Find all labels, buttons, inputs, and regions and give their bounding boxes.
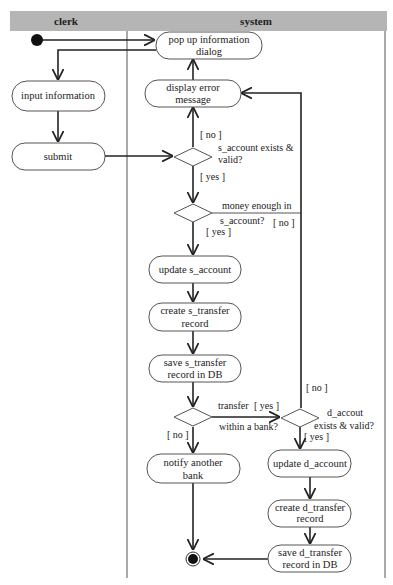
- svg-text:transfer: transfer: [218, 400, 249, 411]
- activity-input-information: input information: [12, 81, 105, 111]
- activity-update-d-account: update d_account: [268, 450, 351, 477]
- guard-yes: [ yes ]: [200, 171, 225, 182]
- activity-create-s-transfer: create s_transfer record: [149, 303, 241, 331]
- svg-text:submit: submit: [44, 151, 73, 162]
- activity-notify-another-bank: notify another bank: [147, 454, 240, 483]
- activity-submit: submit: [12, 143, 105, 170]
- svg-text:record: record: [297, 513, 325, 524]
- svg-text:valid?: valid?: [218, 154, 243, 165]
- guard-no: [ no ]: [167, 429, 189, 440]
- svg-text:record: record: [182, 318, 210, 329]
- decision-s-account-valid: s_account exists & valid? [ no ] [ yes ]: [174, 129, 294, 182]
- guard-yes: [ yes ]: [254, 400, 279, 411]
- svg-text:exists & valid?: exists & valid?: [314, 420, 375, 431]
- guard-no: [ no ]: [273, 217, 295, 228]
- svg-text:s_account?: s_account?: [220, 215, 265, 226]
- svg-text:save d_transfer: save d_transfer: [278, 547, 342, 558]
- guard-yes: [ yes ]: [206, 226, 231, 237]
- decision-d-account-valid: d_accout exists & valid? [ no ] [ yes ]: [281, 382, 375, 442]
- svg-text:money enough in: money enough in: [222, 200, 291, 211]
- svg-text:within a bank?: within a bank?: [219, 421, 278, 432]
- activity-create-d-transfer: create d_transfer record: [268, 500, 351, 527]
- svg-text:update d_account: update d_account: [273, 458, 347, 469]
- guard-yes: [ yes ]: [304, 431, 329, 442]
- svg-text:bank: bank: [183, 470, 204, 481]
- svg-text:input information: input information: [21, 90, 96, 101]
- activity-save-s-transfer: save s_transfer record in DB: [149, 355, 241, 382]
- lane-title-clerk: clerk: [54, 15, 79, 27]
- activity-pop-up: pop up information dialog: [156, 32, 262, 59]
- svg-text:save s_transfer: save s_transfer: [164, 357, 227, 368]
- decision-within-bank: transfer [ yes ] within a bank? [ no ]: [167, 400, 279, 440]
- svg-text:message: message: [175, 94, 211, 105]
- svg-text:d_accout: d_accout: [327, 407, 363, 418]
- svg-text:create s_transfer: create s_transfer: [160, 305, 230, 316]
- final-node: [186, 552, 200, 566]
- svg-text:update s_account: update s_account: [159, 264, 232, 275]
- svg-text:create d_transfer: create d_transfer: [275, 502, 346, 513]
- lane-title-system: system: [240, 15, 272, 27]
- decision-money-enough: money enough in s_account? [ no ] [ yes …: [174, 200, 295, 237]
- activity-save-d-transfer: save d_transfer record in DB: [268, 545, 351, 572]
- svg-text:record in DB: record in DB: [283, 559, 338, 570]
- activity-display-error: display error message: [145, 80, 241, 107]
- svg-text:s_account exists &: s_account exists &: [218, 142, 294, 153]
- guard-no: [ no ]: [200, 129, 222, 140]
- initial-node: [31, 34, 43, 46]
- svg-text:display error: display error: [166, 82, 220, 93]
- svg-text:record in DB: record in DB: [168, 369, 223, 380]
- svg-text:pop up information: pop up information: [168, 34, 250, 45]
- svg-text:notify another: notify another: [163, 457, 223, 468]
- activity-update-s-account: update s_account: [149, 256, 241, 283]
- svg-text:dialog: dialog: [196, 46, 223, 57]
- activity-diagram: clerk system: [0, 0, 393, 585]
- guard-no: [ no ]: [306, 382, 328, 393]
